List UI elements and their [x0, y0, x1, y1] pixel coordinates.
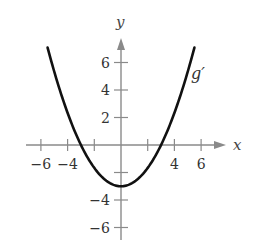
y-axis-arrow-icon: [117, 38, 125, 50]
y-tick-label: 2: [101, 110, 110, 126]
x-axis-label: x: [233, 136, 242, 154]
x-tick-labels: −6−446: [31, 156, 206, 172]
y-tick-label: −6: [89, 220, 110, 236]
y-tick-label: 4: [101, 82, 110, 98]
y-axis-label: y: [115, 13, 125, 31]
x-tick-label: −4: [57, 156, 78, 172]
x-tick-label: 4: [170, 156, 179, 172]
x-tick-label: 6: [197, 156, 206, 172]
y-tick-label: −4: [89, 192, 110, 208]
chart: −6−446 −6−4246 x y g′: [0, 0, 256, 250]
x-tick-label: −6: [31, 156, 52, 172]
curve-label: g′: [191, 64, 205, 83]
y-tick-label: 6: [101, 55, 110, 71]
x-axis-arrow-icon: [214, 141, 226, 149]
